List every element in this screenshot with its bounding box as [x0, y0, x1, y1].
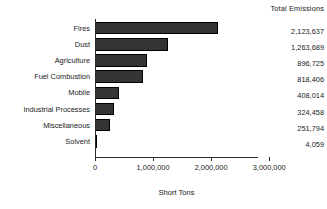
- bar: [95, 38, 168, 51]
- bar: [95, 70, 143, 83]
- x-axis-tick: [95, 157, 96, 161]
- total-emissions-values: 2,123,6371,263,689896,725818,406408,0143…: [243, 23, 325, 153]
- category-label: Industrial Processes: [0, 101, 92, 117]
- category-label: Agriculture: [0, 52, 92, 68]
- x-axis-tick-label: 3,000,000: [253, 163, 286, 172]
- x-axis-title: Short Tons: [95, 188, 258, 198]
- category-label: Fuel Combustion: [0, 69, 92, 85]
- total-emissions-value: 896,725: [243, 55, 325, 71]
- x-axis-tick-label: 0: [93, 163, 97, 172]
- total-emissions-value: 4,059: [243, 136, 325, 152]
- total-emissions-value: 324,458: [243, 104, 325, 120]
- total-emissions-header: Total Emissions: [243, 4, 325, 13]
- category-axis-labels: FiresDustAgricultureFuel CombustionMobil…: [0, 20, 92, 150]
- category-label: Fires: [0, 20, 92, 36]
- category-label: Mobile: [0, 85, 92, 101]
- category-label: Dust: [0, 36, 92, 52]
- total-emissions-value: 818,406: [243, 72, 325, 88]
- x-axis-tick: [269, 157, 270, 161]
- x-axis-line: [95, 157, 258, 158]
- total-emissions-value: 408,014: [243, 88, 325, 104]
- y-axis-line: [95, 19, 96, 157]
- total-emissions-value: 1,263,689: [243, 39, 325, 55]
- x-axis-tick: [153, 157, 154, 161]
- bar: [95, 22, 218, 35]
- bar: [95, 87, 119, 100]
- bar: [95, 103, 114, 116]
- x-axis-tick-label: 2,000,000: [195, 163, 228, 172]
- bar: [95, 54, 147, 67]
- total-emissions-value: 251,794: [243, 120, 325, 136]
- x-axis-tick: [211, 157, 212, 161]
- category-label: Solvent: [0, 133, 92, 149]
- total-emissions-value: 2,123,637: [243, 23, 325, 39]
- category-label: Miscellaneous: [0, 117, 92, 133]
- bar: [95, 119, 110, 132]
- bar-chart-figure: FiresDustAgricultureFuel CombustionMobil…: [0, 0, 327, 209]
- total-emissions-column: Total Emissions 2,123,6371,263,689896,72…: [243, 4, 325, 153]
- x-axis-tick-label: 1,000,000: [137, 163, 170, 172]
